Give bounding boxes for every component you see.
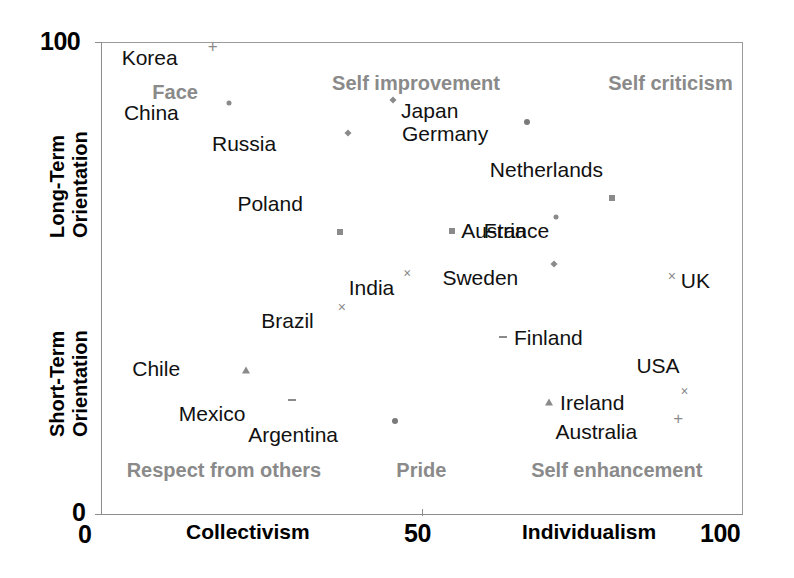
marker-plus: +: [673, 410, 683, 427]
data-point-label-netherlands: Netherlands: [490, 158, 603, 182]
data-point-label-mexico: Mexico: [179, 402, 246, 426]
y-tick-0: [95, 514, 102, 515]
data-point-label-usa: USA: [636, 354, 679, 378]
chart-root: 100 0 0 50 100 Collectivism Individualis…: [0, 0, 794, 578]
y-axis-title-long-term: Long-Term Orientation: [46, 131, 92, 238]
data-point-label-sweden: Sweden: [442, 266, 518, 290]
data-point-label-germany: Germany: [402, 122, 488, 146]
y-axis-title-short-term: Short-Term Orientation: [46, 330, 92, 437]
data-point-label-china: China: [124, 101, 179, 125]
marker-square: [337, 229, 343, 235]
marker-dot: [392, 418, 398, 424]
data-point-label-poland: Poland: [237, 192, 302, 216]
x-axis-title-collectivism: Collectivism: [186, 520, 310, 544]
marker-dot: [226, 101, 231, 106]
quadrant-label-self-enhancement: Self enhancement: [531, 459, 702, 482]
y-axis-title-short-term-line1: Short-Term: [46, 331, 68, 437]
data-point-label-brazil: Brazil: [261, 309, 314, 333]
data-point-label-russia: Russia: [212, 132, 276, 156]
marker-cross: ×: [681, 385, 689, 399]
marker-dot: [524, 119, 530, 125]
marker-dash: [288, 399, 296, 401]
y-axis-title-short-term-line2: Orientation: [69, 330, 92, 437]
x-axis-tick-label-100: 100: [700, 519, 740, 548]
data-point-label-australia: Australia: [555, 420, 637, 444]
quadrant-label-respect-from-others: Respect from others: [127, 459, 322, 482]
data-point-label-uk: UK: [681, 269, 710, 293]
data-point-label-korea: Korea: [122, 46, 178, 70]
x-tick-50: [422, 509, 423, 516]
marker-plus: +: [208, 37, 218, 54]
x-axis-tick-label-50: 50: [404, 519, 431, 548]
marker-triangle: [545, 398, 553, 405]
quadrant-label-self-criticism: Self criticism: [608, 72, 733, 95]
data-point-label-argentina: Argentina: [248, 423, 338, 447]
page-bottom-strip: [0, 560, 794, 578]
marker-triangle: [242, 366, 250, 373]
x-axis-title-individualism: Individualism: [522, 520, 656, 544]
data-point-label-chile: Chile: [132, 357, 180, 381]
marker-cross: ×: [338, 300, 346, 314]
y-axis-title-long-term-line2: Orientation: [69, 131, 92, 238]
marker-cross: ×: [668, 269, 676, 283]
x-axis-tick-label-0: 0: [78, 520, 91, 549]
marker-cross: ×: [403, 267, 411, 281]
data-point-label-ireland: Ireland: [560, 391, 624, 415]
y-axis-tick-label-100: 100: [40, 27, 80, 56]
data-point-label-france: France: [484, 219, 549, 243]
quadrant-label-self-improvement: Self improvement: [332, 72, 500, 95]
y-tick-100: [95, 42, 102, 43]
y-axis-title-long-term-line1: Long-Term: [46, 135, 68, 238]
marker-square: [609, 195, 615, 201]
marker-dash: [499, 336, 507, 338]
data-point-label-india: India: [349, 276, 395, 300]
marker-square: [449, 228, 455, 234]
marker-dot: [554, 215, 559, 220]
data-point-label-japan: Japan: [401, 99, 458, 123]
data-point-label-finland: Finland: [514, 326, 583, 350]
quadrant-label-pride: Pride: [396, 459, 446, 482]
